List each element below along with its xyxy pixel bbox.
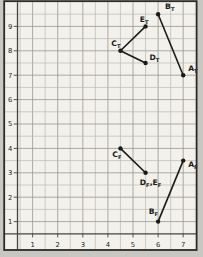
data-point-CF [118, 146, 122, 150]
x-axis-label-3: 3 [81, 241, 85, 249]
x-axis-label-2: 2 [56, 241, 60, 249]
y-axis-label-2: 2 [8, 194, 12, 202]
y-axis-label-6: 6 [8, 96, 12, 104]
data-point-BF [156, 219, 160, 223]
data-point-DEF [143, 171, 147, 175]
y-axis-label-5: 5 [8, 120, 12, 128]
x-axis-label-7: 7 [181, 241, 185, 249]
data-point-BT [156, 12, 160, 16]
y-axis-label-8: 8 [8, 47, 12, 55]
data-point-DT [143, 61, 147, 65]
x-axis-label-6: 6 [156, 241, 160, 249]
x-axis-label-5: 5 [131, 241, 135, 249]
x-axis-label-1: 1 [30, 241, 34, 249]
scatter-plot-canvas: 1234567123456789BT​ET​CT​DT​AT​CF​DF​,EF… [0, 0, 203, 257]
y-axis-label-9: 9 [8, 23, 12, 31]
graph-paper-figure: 1234567123456789BT​ET​CT​DT​AT​CF​DF​,EF… [0, 0, 203, 257]
data-point-AT [181, 73, 185, 77]
y-axis-label-4: 4 [8, 145, 12, 153]
y-axis-label-1: 1 [8, 218, 12, 226]
y-axis-label-3: 3 [8, 169, 12, 177]
data-point-CT [118, 49, 122, 53]
x-axis-label-4: 4 [106, 241, 110, 249]
data-point-AF [181, 158, 185, 162]
y-axis-label-7: 7 [8, 72, 12, 80]
